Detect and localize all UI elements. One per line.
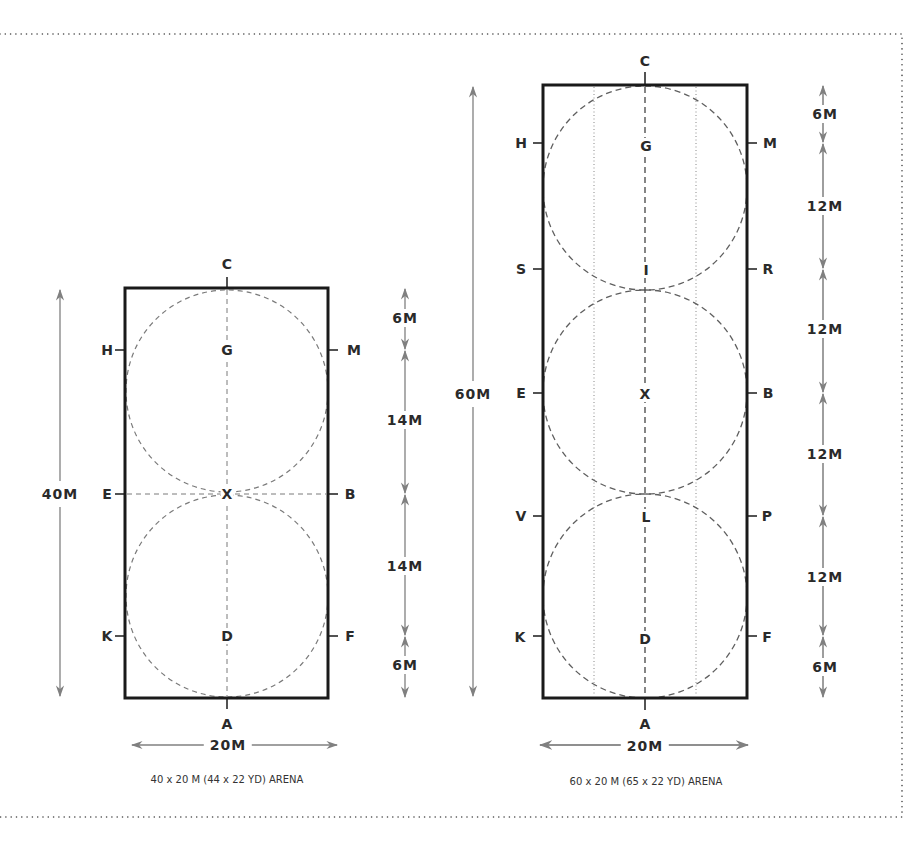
marker-letter-a: A <box>640 717 651 731</box>
centreline-letter-x: X <box>639 386 652 402</box>
width-label-20m: 20M <box>621 737 669 755</box>
marker-letter-h: H <box>101 343 113 357</box>
segment-label-5: 12M <box>806 568 844 586</box>
marker-letter-k: K <box>102 629 113 643</box>
marker-letter-m: M <box>347 343 361 357</box>
marker-letter-v: V <box>516 509 527 523</box>
centreline-letter-g: G <box>220 342 234 358</box>
arena-diagram-canvas <box>0 0 907 847</box>
length-label-60m: 60M <box>453 381 493 407</box>
segment-label-6: 6M <box>811 658 839 676</box>
centreline-letter-g: G <box>639 138 653 154</box>
centreline-letter-d: D <box>220 628 234 644</box>
segment-label-2: 14M <box>386 411 424 429</box>
marker-letter-f: F <box>345 629 355 643</box>
segment-label-1: 6M <box>391 309 419 327</box>
width-label-20m: 20M <box>204 736 252 754</box>
segment-label-4: 12M <box>806 445 844 463</box>
arena-large-caption: 60 x 20 M (65 x 22 YD) ARENA <box>570 777 723 787</box>
marker-letter-r: R <box>763 262 774 276</box>
marker-letter-b: B <box>763 386 774 400</box>
centreline-letter-l: L <box>641 509 652 525</box>
segment-label-1: 6M <box>811 105 839 123</box>
marker-letter-f: F <box>762 630 772 644</box>
marker-letter-p: P <box>762 509 772 523</box>
marker-letter-b: B <box>345 487 356 501</box>
marker-letter-e: E <box>516 386 526 400</box>
marker-letter-k: K <box>515 630 526 644</box>
segment-label-2: 12M <box>806 197 844 215</box>
centreline-letter-x: X <box>221 486 234 502</box>
marker-letter-m: M <box>763 136 777 150</box>
marker-letter-c: C <box>640 54 650 68</box>
marker-letter-c: C <box>222 257 232 271</box>
marker-letter-a: A <box>222 717 233 731</box>
centreline-letter-d: D <box>638 631 652 647</box>
arena-small-caption: 40 x 20 M (44 x 22 YD) ARENA <box>151 775 304 785</box>
segment-label-3: 14M <box>386 557 424 575</box>
segment-label-4: 6M <box>391 656 419 674</box>
length-label-40m: 40M <box>40 481 80 507</box>
centreline-letter-i: I <box>640 262 651 278</box>
dotted-frame <box>0 34 902 817</box>
marker-letter-s: S <box>516 262 526 276</box>
segment-label-3: 12M <box>806 320 844 338</box>
marker-letter-e: E <box>102 487 112 501</box>
marker-letter-h: H <box>515 136 527 150</box>
